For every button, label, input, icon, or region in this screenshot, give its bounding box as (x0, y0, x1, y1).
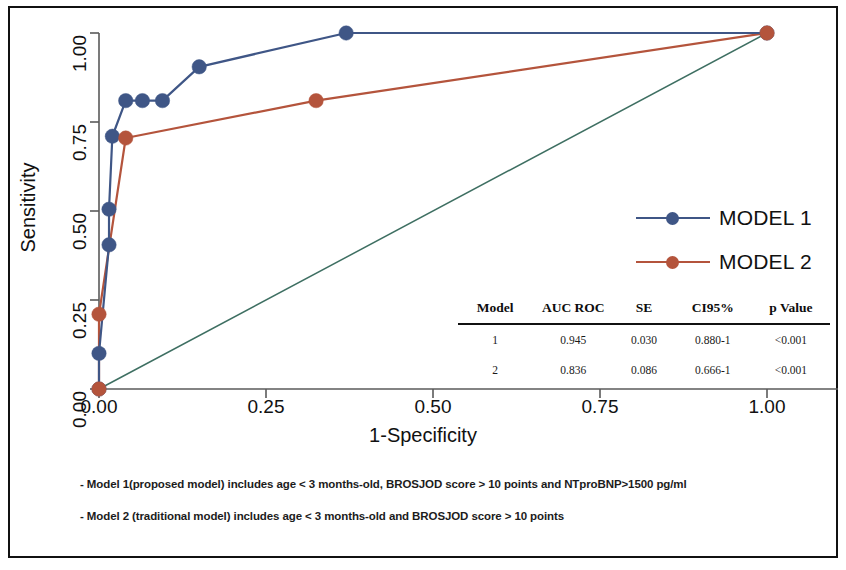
footnotes: - Model 1(proposed model) includes age <… (80, 478, 820, 542)
legend-dot-icon (666, 256, 679, 269)
data-point-model-1-8 (192, 60, 206, 74)
x-tick-label-2: 0.50 (398, 396, 468, 418)
data-point-model-2-4 (760, 26, 774, 40)
stats-cell-auc-roc: 0.836 (532, 355, 614, 385)
data-point-model-1-2 (102, 238, 116, 252)
data-point-model-1-6 (135, 93, 149, 107)
y-axis-title: Sensitivity (17, 118, 40, 298)
stats-cell-auc-roc: 0.945 (532, 324, 614, 355)
y-tick-label-4: 1.00 (69, 35, 91, 93)
footnote-model-2: - Model 2 (traditional model) includes a… (80, 510, 820, 522)
legend-item-model-1[interactable]: MODEL 1 (636, 196, 836, 240)
legend-dot-icon (666, 212, 679, 225)
x-tick-label-4: 1.00 (732, 396, 802, 418)
y-tick-label-3: 0.75 (69, 124, 91, 182)
stats-cell-se: 0.086 (614, 355, 674, 385)
stats-header-auc-roc: AUC ROC (532, 300, 614, 324)
stats-cell-p-value: <0.001 (752, 355, 830, 385)
x-tick-label-3: 0.75 (565, 396, 635, 418)
stats-header-p-value: p Value (752, 300, 830, 324)
data-point-model-1-1 (92, 346, 106, 360)
stats-cell-ci95: 0.880-1 (674, 324, 752, 355)
roc-figure: 0.00 0.25 0.50 0.75 1.00 0.00 0.25 0.50 … (0, 0, 846, 570)
table-row: 1 0.945 0.030 0.880-1 <0.001 (458, 324, 830, 355)
stats-header-se: SE (614, 300, 674, 324)
data-point-model-1-5 (119, 93, 133, 107)
legend-item-model-2[interactable]: MODEL 2 (636, 240, 836, 284)
stats-header-ci95: CI95% (674, 300, 752, 324)
x-tick-label-1: 0.25 (231, 396, 301, 418)
data-point-model-1-9 (339, 26, 353, 40)
legend-swatch-model-2 (636, 253, 710, 271)
stats-header-model: Model (458, 300, 532, 324)
x-axis-title: 1-Specificity (0, 424, 846, 447)
stats-cell-ci95: 0.666-1 (674, 355, 752, 385)
stats-cell-se: 0.030 (614, 324, 674, 355)
stats-table: Model AUC ROC SE CI95% p Value 1 0.945 0… (458, 300, 830, 385)
table-row: 2 0.836 0.086 0.666-1 <0.001 (458, 355, 830, 385)
stats-cell-model: 1 (458, 324, 532, 355)
data-point-model-1-3 (102, 202, 116, 216)
stats-cell-p-value: <0.001 (752, 324, 830, 355)
legend-label-model-2: MODEL 2 (719, 250, 812, 274)
legend-label-model-1: MODEL 1 (719, 206, 812, 230)
stats-table-body: 1 0.945 0.030 0.880-1 <0.001 2 0.836 0.0… (458, 324, 830, 385)
chart-legend: MODEL 1 MODEL 2 (636, 196, 836, 284)
data-point-model-2-2 (119, 131, 133, 145)
stats-table-head: Model AUC ROC SE CI95% p Value (458, 300, 830, 324)
data-point-model-1-7 (155, 93, 169, 107)
data-point-model-2-3 (309, 93, 323, 107)
y-tick-label-2: 0.50 (69, 213, 91, 271)
data-point-model-2-1 (92, 307, 106, 321)
footnote-model-1: - Model 1(proposed model) includes age <… (80, 478, 820, 490)
data-point-model-1-4 (105, 129, 119, 143)
data-point-model-2-0 (92, 382, 106, 396)
y-tick-label-1: 0.25 (69, 302, 91, 360)
stats-cell-model: 2 (458, 355, 532, 385)
legend-swatch-model-1 (636, 209, 710, 227)
stats-table-header-row: Model AUC ROC SE CI95% p Value (458, 300, 830, 324)
